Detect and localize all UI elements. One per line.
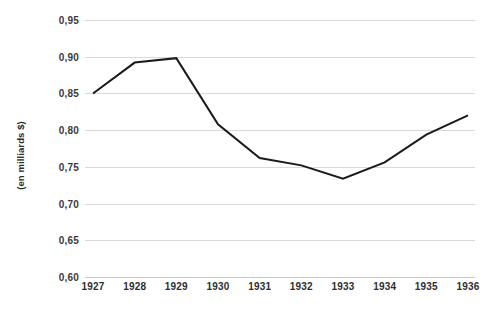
y-tick-label: 0,85 (45, 88, 79, 99)
y-tick-label: 0,90 (45, 51, 79, 62)
series-line-chart (85, 20, 475, 277)
y-tick-label: 0,65 (45, 235, 79, 246)
gridline (85, 277, 475, 278)
x-tick-label: 1928 (113, 281, 157, 292)
x-tick-label: 1929 (154, 281, 198, 292)
x-axis-tick-labels: 1927192819291930193119321933193419351936 (85, 281, 475, 301)
y-tick-label: 0,95 (45, 15, 79, 26)
x-tick-label: 1934 (363, 281, 407, 292)
series-line (93, 58, 468, 178)
x-tick-label: 1927 (71, 281, 115, 292)
x-tick-label: 1936 (446, 281, 490, 292)
x-tick-label: 1935 (404, 281, 448, 292)
plot-area (85, 20, 475, 277)
y-axis-title-label: (en milliards $) (15, 121, 26, 190)
y-tick-label: 0,75 (45, 161, 79, 172)
y-tick-label: 0,70 (45, 198, 79, 209)
x-tick-label: 1931 (238, 281, 282, 292)
y-axis-tick-labels: 0,950,900,850,800,750,700,650,60 (43, 20, 79, 277)
y-axis-title: (en milliards $) (0, 0, 40, 310)
y-tick-label: 0,80 (45, 125, 79, 136)
x-tick-label: 1930 (196, 281, 240, 292)
x-tick-label: 1933 (321, 281, 365, 292)
line-chart: (en milliards $) 0,950,900,850,800,750,7… (0, 0, 503, 310)
x-tick-label: 1932 (279, 281, 323, 292)
